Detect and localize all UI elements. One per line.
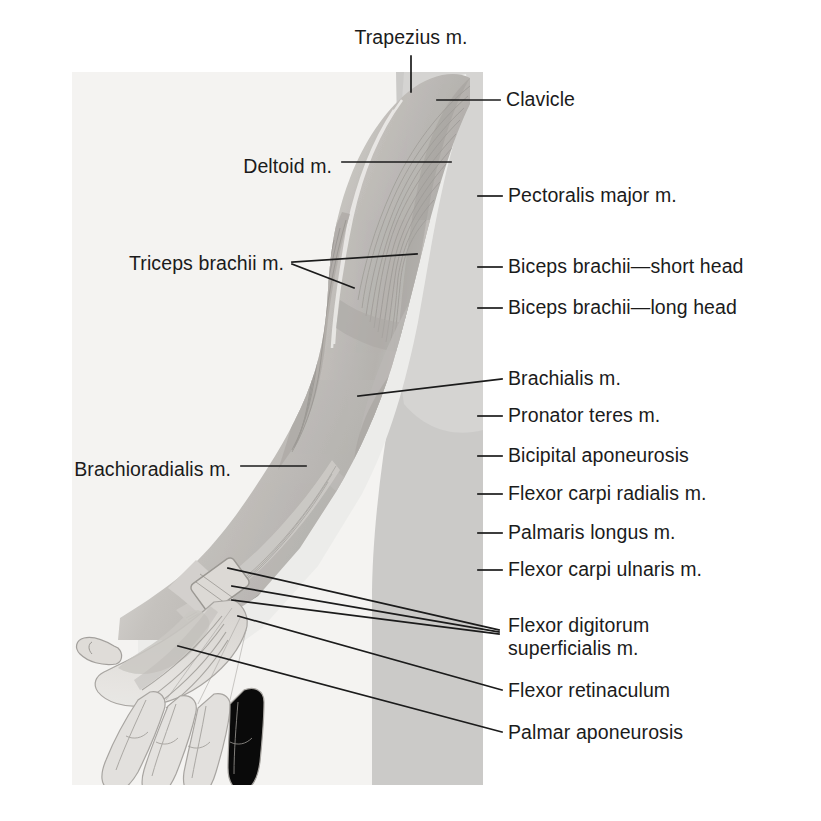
label-flexor-carpi-ulnaris-m: Flexor carpi ulnaris m. (508, 558, 702, 581)
label-palmar-aponeurosis: Palmar aponeurosis (508, 721, 683, 744)
label-flexor-retinaculum: Flexor retinaculum (508, 679, 670, 702)
leader-palmar-aponeurosis (178, 646, 502, 732)
leader-triceps-brachii-a (292, 254, 417, 262)
label-clavicle: Clavicle (506, 88, 575, 111)
leader-triceps-brachii-b (292, 264, 354, 288)
label-triceps-brachii-m: Triceps brachii m. (0, 252, 284, 275)
label-flexor-carpi-radialis-m: Flexor carpi radialis m. (508, 482, 707, 505)
label-pronator-teres-m: Pronator teres m. (508, 404, 660, 427)
label-deltoid-m: Deltoid m. (0, 155, 332, 178)
leader-flexor-digitorum-superficialis-c (232, 600, 499, 634)
label-brachioradialis-m: Brachioradialis m. (0, 458, 231, 481)
label-biceps-brachii-long-head: Biceps brachii—long head (508, 296, 737, 319)
label-bicipital-aponeurosis: Bicipital aponeurosis (508, 444, 689, 467)
label-flexor-digitorum-superficialis-line1: Flexor digitorum (508, 614, 649, 637)
leader-lines (0, 0, 821, 821)
label-flexor-digitorum-superficialis-line2: superficialis m. (508, 637, 639, 660)
leader-brachialis (358, 379, 502, 396)
label-trapezius-m: Trapezius m. (261, 26, 561, 49)
label-brachialis-m: Brachialis m. (508, 367, 621, 390)
label-palmaris-longus-m: Palmaris longus m. (508, 521, 676, 544)
leader-flexor-retinaculum (238, 616, 502, 690)
label-biceps-brachii-short-head: Biceps brachii—short head (508, 255, 744, 278)
label-pectoralis-major-m: Pectoralis major m. (508, 184, 677, 207)
leader-flexor-digitorum-superficialis-a (228, 568, 499, 630)
anatomical-figure: Trapezius m. Clavicle Deltoid m. Pectora… (0, 0, 821, 821)
